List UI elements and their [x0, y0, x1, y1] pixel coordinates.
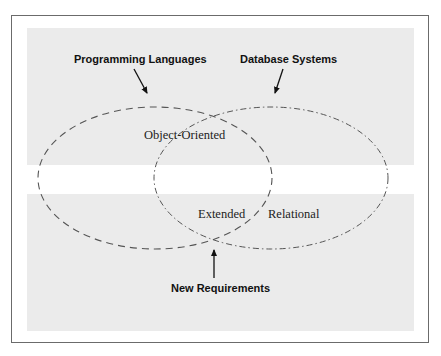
- programming-languages-arrow: [134, 69, 147, 93]
- database-systems-label: Database Systems: [240, 53, 337, 65]
- venn-diagram: [0, 0, 441, 356]
- object-oriented-label: Object-Oriented: [144, 128, 225, 143]
- programming-languages-label: Programming Languages: [74, 53, 207, 65]
- relational-label: Relational: [268, 207, 319, 222]
- new-requirements-label: New Requirements: [171, 282, 270, 294]
- extended-label: Extended: [198, 207, 245, 222]
- database-systems-arrow: [275, 69, 283, 93]
